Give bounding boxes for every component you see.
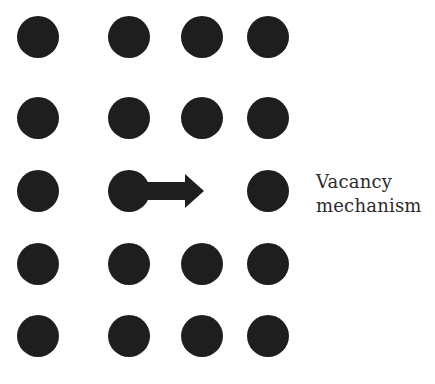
- atom-circle: [247, 16, 289, 58]
- atom-circle: [247, 170, 289, 212]
- atom-circle: [17, 97, 59, 139]
- atom-circle: [181, 16, 223, 58]
- atom-circle: [108, 97, 150, 139]
- atom-circle: [181, 315, 223, 357]
- atom-circle: [17, 243, 59, 285]
- atom-circle: [17, 16, 59, 58]
- atom-circle: [247, 315, 289, 357]
- vacancy-mechanism-label: Vacancy mechanism: [316, 170, 422, 218]
- atom-circle: [247, 243, 289, 285]
- atom-circle: [181, 243, 223, 285]
- atom-circle: [108, 243, 150, 285]
- atom-circle: [247, 97, 289, 139]
- label-line-1: Vacancy: [316, 170, 422, 194]
- atom-circle: [108, 315, 150, 357]
- atom-circle: [17, 170, 59, 212]
- label-line-2: mechanism: [316, 194, 422, 218]
- atom-circle: [108, 16, 150, 58]
- atom-circle: [17, 315, 59, 357]
- atom-circle: [181, 97, 223, 139]
